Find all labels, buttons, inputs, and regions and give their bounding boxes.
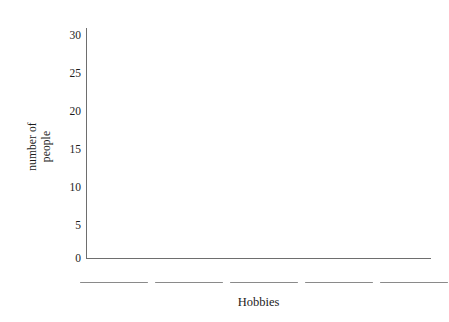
y-tick-label-20: 20 bbox=[55, 106, 81, 118]
x-axis-line bbox=[86, 258, 431, 259]
category-placeholder-1 bbox=[80, 282, 148, 283]
bar-chart: number of people 30 25 20 15 10 5 0 Hobb… bbox=[0, 0, 449, 322]
category-placeholder-4 bbox=[305, 282, 373, 283]
y-tick-label-10: 10 bbox=[55, 182, 81, 194]
category-placeholder-5 bbox=[380, 282, 448, 283]
y-tick-label-15: 15 bbox=[55, 144, 81, 156]
plot-area bbox=[87, 28, 431, 258]
x-axis-category-placeholders bbox=[80, 282, 432, 284]
category-placeholder-2 bbox=[155, 282, 223, 283]
y-axis-tick-labels: 30 25 20 15 10 5 0 bbox=[55, 0, 81, 322]
y-tick-label-5: 5 bbox=[55, 220, 81, 232]
y-axis-label-text: number of people bbox=[26, 122, 53, 170]
x-axis-label: Hobbies bbox=[86, 295, 431, 310]
y-tick-label-0: 0 bbox=[55, 253, 81, 265]
y-tick-label-25: 25 bbox=[55, 68, 81, 80]
y-axis-label-line-1: number of bbox=[26, 122, 40, 170]
y-axis-label-line-2: people bbox=[39, 122, 53, 170]
y-tick-label-30: 30 bbox=[55, 30, 81, 42]
category-placeholder-3 bbox=[230, 282, 298, 283]
